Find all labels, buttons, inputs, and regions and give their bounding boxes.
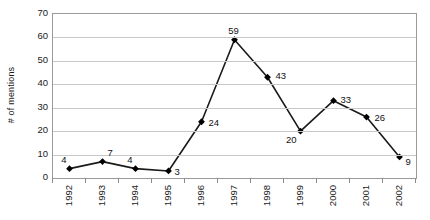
data-point-label: 59 — [214, 26, 254, 36]
x-axis-tick-label: 1993 — [96, 185, 108, 219]
y-axis-tick-label: 20 — [28, 125, 48, 135]
x-axis-tick — [52, 178, 53, 183]
x-axis-tick-label-text: 1992 — [64, 185, 74, 206]
data-point-label: 9 — [406, 157, 411, 167]
series-line — [70, 40, 400, 171]
y-axis-tick-label: 60 — [28, 31, 48, 41]
x-axis-tick — [151, 178, 152, 183]
x-axis-tick — [415, 178, 416, 183]
data-point-marker[interactable] — [132, 165, 139, 172]
y-axis-tick-label: 0 — [28, 172, 48, 182]
x-axis-tick-label-text: 2002 — [394, 185, 404, 206]
x-axis-tick-label: 2002 — [393, 185, 405, 219]
x-axis-tick-label-text: 1994 — [130, 185, 140, 206]
x-axis-tick-label: 1996 — [195, 185, 207, 219]
gridline — [53, 108, 416, 109]
y-axis-tick-label: 40 — [28, 78, 48, 88]
x-axis-tick — [118, 178, 119, 183]
x-axis-tick-label: 1997 — [228, 185, 240, 219]
x-axis-tick-label: 2001 — [360, 185, 372, 219]
y-axis-tick-label: 50 — [28, 55, 48, 65]
x-axis-tick — [283, 178, 284, 183]
x-axis-tick-label: 1992 — [63, 185, 75, 219]
x-axis-tick-label: 1998 — [261, 185, 273, 219]
x-axis-tick — [382, 178, 383, 183]
x-axis-tick-label: 1999 — [294, 185, 306, 219]
x-axis-tick-label: 1994 — [129, 185, 141, 219]
x-axis-tick — [184, 178, 185, 183]
x-axis-tick-label-text: 2001 — [361, 185, 371, 206]
x-axis-tick-label-text: 1998 — [262, 185, 272, 206]
x-axis-tick-label-text: 1997 — [229, 185, 239, 206]
data-point-label: 20 — [0, 135, 297, 145]
data-point-marker[interactable] — [66, 165, 73, 172]
data-point-label: 43 — [276, 71, 287, 81]
y-axis-tick-label: 30 — [28, 102, 48, 112]
x-axis-tick-label-text: 1999 — [295, 185, 305, 206]
data-point-label: 24 — [209, 118, 220, 128]
gridline — [53, 61, 416, 62]
x-axis-tick — [316, 178, 317, 183]
line-chart: # of mentions 706050403020100 1992199319… — [0, 0, 430, 220]
gridline — [53, 131, 416, 132]
x-axis-tick — [349, 178, 350, 183]
y-axis-tick-label: 70 — [28, 8, 48, 18]
x-axis-tick-label-text: 1993 — [97, 185, 107, 206]
x-axis-tick-label-text: 1995 — [163, 185, 173, 206]
data-point-label: 33 — [341, 95, 352, 105]
y-axis-title-text: # of mentions — [6, 67, 16, 124]
x-axis-tick-label: 1995 — [162, 185, 174, 219]
x-axis-tick-label-text: 1996 — [196, 185, 206, 206]
x-axis-tick-label: 2000 — [327, 185, 339, 219]
x-axis-tick — [217, 178, 218, 183]
data-point-label: 3 — [175, 167, 180, 177]
y-axis-tick-labels: 706050403020100 — [26, 0, 48, 220]
data-point-label: 26 — [375, 113, 386, 123]
x-axis-tick-label-text: 2000 — [328, 185, 338, 206]
gridline — [53, 37, 416, 38]
data-point-label: 4 — [0, 155, 133, 165]
x-axis-tick — [85, 178, 86, 183]
x-axis-tick — [250, 178, 251, 183]
gridline — [53, 84, 416, 85]
